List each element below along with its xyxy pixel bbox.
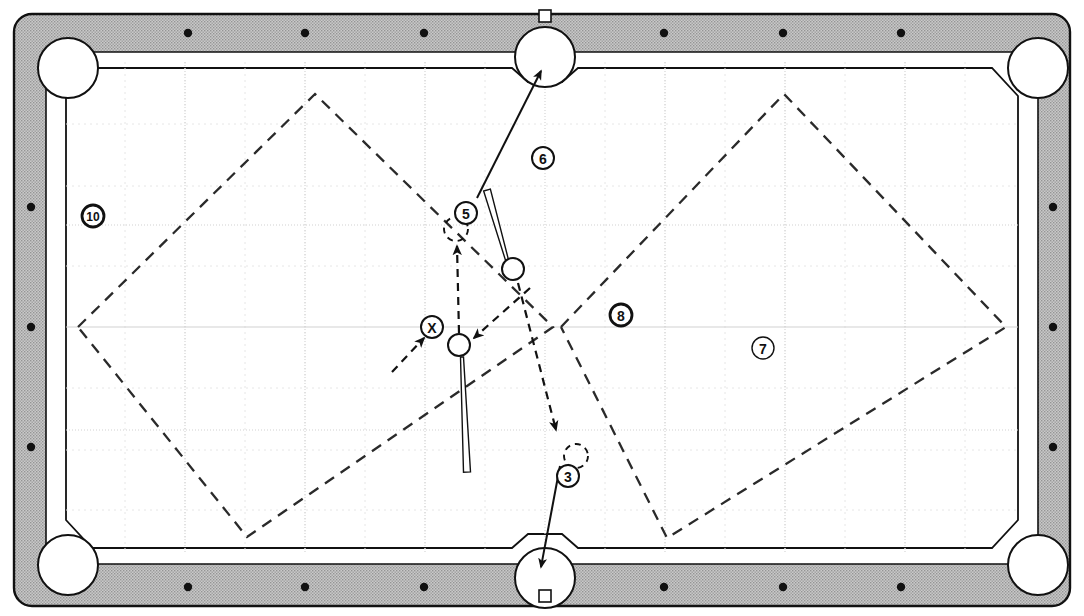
bottom-pocket-tab [539,590,551,602]
sight-dot-bottom-0 [184,583,192,591]
top-center-pocket[interactable] [515,27,575,87]
cue-ball-lower[interactable] [448,334,470,356]
sight-dot-left-0 [27,203,35,211]
top-center-pocket-opening [515,27,575,87]
sight-dot-right-0 [1049,203,1057,211]
label-x-text: X [427,320,437,336]
top-right-pocket[interactable] [1008,38,1068,98]
sight-dot-bottom-5 [897,583,905,591]
bottom-left-pocket[interactable] [38,535,98,595]
sight-dot-top-3 [660,29,668,37]
object-ball-upper[interactable] [502,258,524,280]
playfield-outline [66,68,1018,548]
sight-dot-right-1 [1049,323,1057,331]
sight-dot-right-2 [1049,443,1057,451]
label-7: 7 [752,337,774,359]
top-pocket-tab [539,10,551,22]
label-7-text: 7 [759,341,767,357]
label-8: 8 [610,304,632,326]
label-6: 6 [532,147,554,169]
label-3: 3 [557,465,579,487]
label-8-text: 8 [617,308,625,324]
label-5: 5 [455,202,477,224]
sight-dot-top-4 [779,29,787,37]
sight-dot-top-5 [897,29,905,37]
playing-surface [66,62,1018,554]
bottom-right-pocket[interactable] [1008,535,1068,595]
sight-dot-bottom-3 [660,583,668,591]
label-10: 10 [82,205,104,227]
label-3-text: 3 [564,469,572,485]
bottom-right-pocket-opening [1008,535,1068,595]
sight-dot-left-1 [27,323,35,331]
top-right-pocket-opening [1008,38,1068,98]
pool-table-diagram: 106587X3 [0,0,1084,616]
sight-dot-top-1 [301,29,309,37]
diagram-canvas: 106587X3 [0,0,1084,616]
label-5-text: 5 [462,206,470,222]
sight-dot-left-2 [27,443,35,451]
sight-dot-bottom-1 [301,583,309,591]
label-6-text: 6 [539,151,547,167]
label-10-text: 10 [86,210,100,224]
sight-dot-bottom-4 [779,583,787,591]
top-left-pocket-opening [38,38,98,98]
sight-dot-top-0 [184,29,192,37]
sight-dot-top-2 [420,29,428,37]
label-x: X [421,316,443,338]
sight-dot-bottom-2 [420,583,428,591]
top-left-pocket[interactable] [38,38,98,98]
bottom-left-pocket-opening [38,535,98,595]
